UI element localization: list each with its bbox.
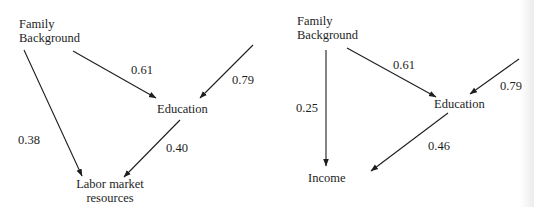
arrow-left-family-to-labor [24,50,82,176]
left-outcome-line1: Labor market [70,177,150,191]
left-node-labor-market-resources: Labor market resources [70,177,150,205]
left-coef-education-to-labor: 0.40 [166,141,188,155]
left-coef-residual-to-education: 0.79 [232,73,254,87]
arrow-right-family-to-education [347,48,436,97]
right-family-line2: Background [297,28,358,42]
left-coef-family-to-labor: 0.38 [18,133,40,147]
arrow-left-residual-to-education [200,45,253,98]
left-family-line1: Family [19,17,80,31]
page-edge-shadow [520,0,534,207]
right-node-family-background: Family Background [297,14,358,42]
right-coef-family-to-education: 0.61 [393,58,415,72]
right-family-line1: Family [297,14,358,28]
right-coef-family-to-income: 0.25 [296,101,318,115]
right-node-income: Income [308,171,345,185]
left-outcome-line2: resources [70,191,150,205]
right-coef-education-to-income: 0.46 [428,139,450,153]
left-coef-family-to-education: 0.61 [131,63,153,77]
left-node-education: Education [157,102,208,116]
right-node-education: Education [434,97,485,111]
right-coef-residual-to-education: 0.79 [500,79,522,93]
path-diagram-canvas: Family Background 0.61 0.79 Education 0.… [0,0,534,207]
left-family-line2: Background [19,31,80,45]
left-node-family-background: Family Background [19,17,80,45]
